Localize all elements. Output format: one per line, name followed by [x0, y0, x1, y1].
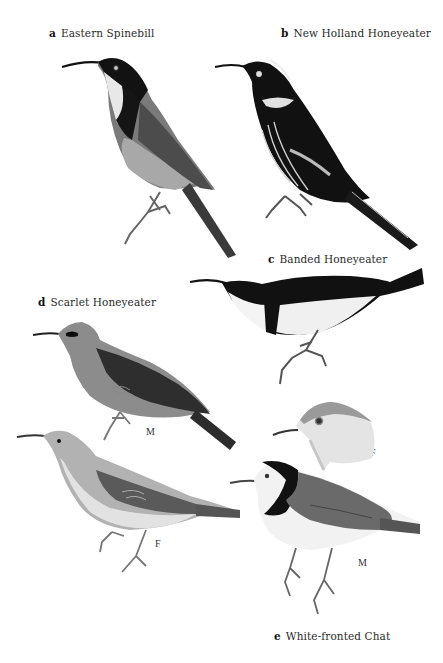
white-fronted-chat-male-illustration [0, 0, 443, 663]
